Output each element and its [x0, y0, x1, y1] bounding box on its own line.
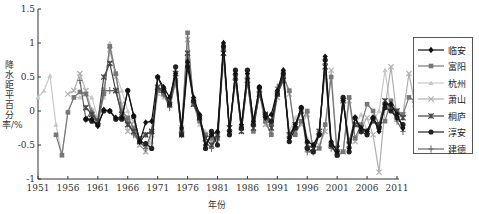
y-tick-label: 1.5 [21, 4, 36, 14]
x-tick-label: 1961 [86, 183, 109, 193]
x-tick-label: 1991 [266, 183, 289, 193]
legend-marker-icon [417, 127, 445, 137]
legend-marker-icon [417, 61, 445, 71]
y-axis-label: 降水距平百分率/% [2, 60, 16, 130]
legend-item-xiaoshan: 萧山 [417, 92, 466, 106]
legend-marker-icon [417, 94, 445, 104]
y-tick-label: 0 [29, 106, 35, 116]
x-axis-label: 年份 [208, 198, 226, 211]
legend-item-chunan: 淳安 [417, 125, 466, 139]
legend-item-linan: 临安 [417, 43, 466, 57]
x-tick-label: 1956 [56, 183, 79, 193]
x-tick-label: 1986 [236, 183, 259, 193]
legend-marker-icon [417, 111, 445, 121]
legend-marker-icon [417, 78, 445, 88]
x-tick-label: 1996 [296, 183, 319, 193]
legend: 临安 富阳 杭州 萧山 桐庐 淳安 建德 [413, 37, 473, 154]
legend-marker-icon [417, 144, 445, 154]
x-tick-label: 2001 [326, 183, 349, 193]
legend-marker-icon [417, 45, 445, 55]
series-1 [54, 31, 418, 158]
legend-item-hangzhou: 杭州 [417, 76, 466, 90]
x-tick-label: 2011 [386, 183, 409, 193]
line-chart: -1-0.500.511.519511956196119661971197619… [0, 0, 479, 214]
y-tick-label: 1 [29, 38, 35, 48]
y-tick-label: 0.5 [21, 72, 36, 82]
x-tick-label: 1951 [27, 183, 50, 193]
x-tick-label: 1971 [146, 183, 169, 193]
x-tick-label: 1976 [176, 183, 199, 193]
series-3 [65, 37, 417, 175]
legend-item-fuyang: 富阳 [417, 59, 466, 73]
x-tick-label: 1981 [206, 183, 229, 193]
legend-item-jiande: 建德 [417, 142, 466, 156]
x-tick-label: 2006 [356, 183, 379, 193]
legend-item-tonglu: 桐庐 [417, 109, 466, 123]
x-tick-label: 1966 [116, 183, 139, 193]
y-tick-label: -0.5 [18, 140, 36, 150]
